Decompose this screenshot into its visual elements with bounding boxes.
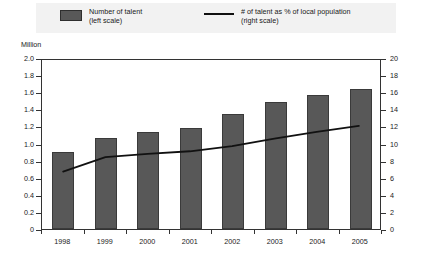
right-axis-tick-label: 10 — [390, 141, 398, 149]
left-axis-tick-label: 1.4 — [24, 106, 34, 114]
right-axis-tick-label: 2 — [390, 209, 394, 217]
right-axis-tick — [381, 127, 386, 128]
right-axis-tick — [381, 110, 386, 111]
x-axis-tick — [381, 230, 382, 234]
right-axis-tick-label: 14 — [390, 106, 398, 114]
legend-item-percent-of-local-population: # of talent as % of local population (ri… — [204, 7, 350, 25]
right-axis-tick-label: 4 — [390, 192, 394, 200]
x-axis-tick — [169, 230, 170, 234]
x-axis-tick — [211, 230, 212, 234]
x-axis-label-1998: 1998 — [42, 237, 82, 246]
left-axis-tick-label: 0.4 — [24, 192, 34, 200]
x-axis-label-2001: 2001 — [170, 237, 210, 246]
legend-line-swatch-icon — [204, 13, 234, 15]
x-axis-tick — [126, 230, 127, 234]
plot-area — [41, 59, 381, 230]
x-axis-label-2003: 2003 — [255, 237, 295, 246]
legend-item-number-of-talent: Number of talent (left scale) — [60, 7, 142, 25]
right-axis-tick-label: 6 — [390, 175, 394, 183]
right-axis-tick-label: 0 — [390, 226, 394, 234]
x-axis-tick — [296, 230, 297, 234]
x-axis-tick — [84, 230, 85, 234]
left-axis-tick-label: 1.6 — [24, 89, 34, 97]
x-axis-tick — [41, 230, 42, 234]
legend-label-bars-line1: Number of talent — [89, 7, 142, 16]
chart-figure: Number of talent (left scale) # of talen… — [0, 0, 426, 255]
x-axis-tick — [339, 230, 340, 234]
x-axis-label-2002: 2002 — [212, 237, 252, 246]
right-axis-tick-label: 8 — [390, 158, 394, 166]
right-axis-tick — [381, 196, 386, 197]
legend-label-group: # of talent as % of local population (ri… — [241, 7, 350, 25]
x-axis-label-2004: 2004 — [297, 237, 337, 246]
right-axis-tick — [381, 213, 386, 214]
right-axis-tick — [381, 179, 386, 180]
left-axis-tick-label: 2.0 — [24, 55, 34, 63]
left-axis-tick-label: 1.8 — [24, 72, 34, 80]
left-axis-tick-label: 0.8 — [24, 158, 34, 166]
left-axis-tick-label: 1.0 — [24, 141, 34, 149]
right-axis-tick — [381, 162, 386, 163]
line-series-path — [63, 126, 359, 172]
right-axis-tick — [381, 76, 386, 77]
legend-label-line-line2: (right scale) — [241, 16, 279, 25]
legend-label-group: Number of talent (left scale) — [89, 7, 142, 25]
left-axis-unit-label: Million — [21, 40, 41, 49]
left-axis-tick-label: 0.6 — [24, 175, 34, 183]
right-axis-tick-label: 18 — [390, 72, 398, 80]
left-axis-tick-label: 0.2 — [24, 209, 34, 217]
legend-bar-swatch-icon — [60, 10, 82, 21]
right-axis-tick — [381, 59, 386, 60]
legend-label-line-line1: # of talent as % of local population — [241, 7, 350, 16]
x-axis-label-2000: 2000 — [127, 237, 167, 246]
left-axis-tick-label: 1.2 — [24, 123, 34, 131]
right-axis-tick — [381, 93, 386, 94]
right-axis-tick-label: 20 — [390, 55, 398, 63]
x-axis-label-1999: 1999 — [85, 237, 125, 246]
legend-label-bars-line2: (left scale) — [89, 16, 122, 25]
x-axis-label-2005: 2005 — [340, 237, 380, 246]
right-axis-tick-label: 12 — [390, 123, 398, 131]
right-axis-tick-label: 16 — [390, 89, 398, 97]
left-axis-tick-label: 0 — [30, 226, 34, 234]
line-series-layer — [42, 60, 380, 229]
chart-legend: Number of talent (left scale) # of talen… — [36, 3, 396, 33]
x-axis-tick — [254, 230, 255, 234]
right-axis-tick — [381, 145, 386, 146]
